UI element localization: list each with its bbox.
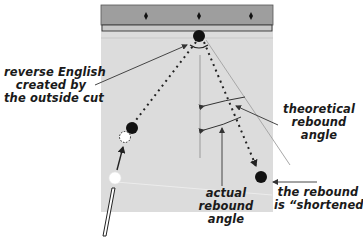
table-felt <box>101 5 273 212</box>
object-ball-at-rail <box>193 30 205 42</box>
reverse-english-label: reverse English created by the outside c… <box>4 66 98 105</box>
actual-rebound-angle-label: actual rebound angle <box>196 187 256 226</box>
top-rail <box>101 5 273 25</box>
label-line: angle <box>278 129 360 142</box>
cushion <box>102 25 272 31</box>
ghost-ball <box>120 132 131 143</box>
object-ball-final <box>255 171 267 183</box>
label-line: angle <box>196 213 256 226</box>
cue-ball <box>109 172 121 184</box>
theoretical-rebound-angle-label: theoretical rebound angle <box>278 103 360 142</box>
label-line: is “shortened” <box>274 199 362 212</box>
rebound-shortened-label: the rebound is “shortened” <box>274 186 362 212</box>
label-line: the outside cut <box>4 92 98 105</box>
